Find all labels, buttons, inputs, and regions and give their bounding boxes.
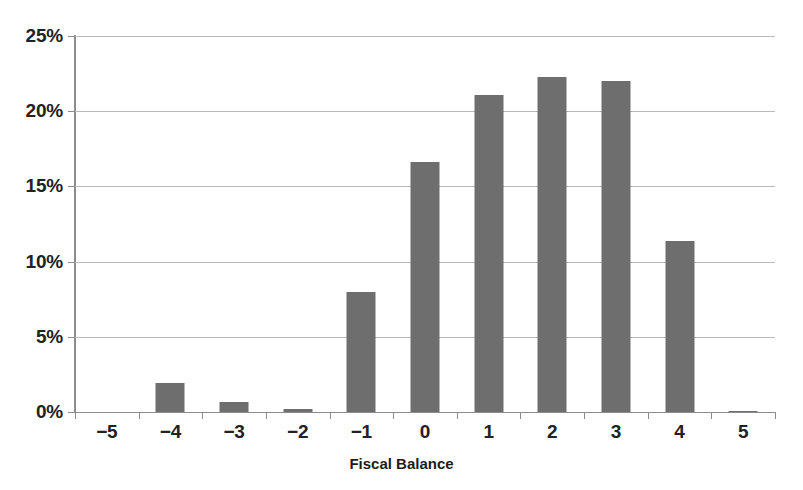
bar: [538, 77, 567, 412]
bar: [601, 81, 630, 412]
x-axis-tick: [775, 412, 776, 419]
plot-area: [75, 36, 775, 412]
x-axis-tick: [202, 412, 203, 419]
x-axis-tick: [584, 412, 585, 419]
bar-slot: [711, 36, 775, 412]
bar-slot: [393, 36, 457, 412]
x-axis-label: −2: [266, 421, 330, 443]
bar: [347, 292, 376, 412]
x-axis-tick: [520, 412, 521, 419]
x-axis-label: 1: [457, 421, 521, 443]
x-axis-label: 2: [520, 421, 584, 443]
y-axis-tick: [68, 36, 74, 37]
y-axis-tick: [68, 111, 74, 112]
x-axis-tick: [457, 412, 458, 419]
page-bleed-text: [30, 483, 730, 487]
x-axis-label: 3: [584, 421, 648, 443]
x-axis-label: 0: [393, 421, 457, 443]
y-axis-label: 10%: [0, 251, 63, 273]
y-axis-label: 15%: [0, 175, 63, 197]
y-axis-tick: [68, 412, 74, 413]
x-axis-tick: [139, 412, 140, 419]
y-axis-label: 0%: [0, 401, 63, 423]
bar-slot: [202, 36, 266, 412]
bars-group: [75, 36, 775, 412]
bar-slot: [266, 36, 330, 412]
x-axis-label: −4: [138, 421, 202, 443]
y-axis-label: 20%: [0, 100, 63, 122]
y-axis-tick: [68, 186, 74, 187]
x-axis-label: −3: [202, 421, 266, 443]
gridline-0%: [75, 412, 775, 413]
y-axis-label: 25%: [0, 25, 63, 47]
bar: [283, 409, 312, 412]
x-axis-label: 5: [711, 421, 775, 443]
x-axis-tick: [711, 412, 712, 419]
bar-slot: [584, 36, 648, 412]
y-axis-label: 5%: [0, 326, 63, 348]
bar-chart-figure: 0%5%10%15%20%25% −5−4−3−2−1012345 Fiscal…: [0, 0, 803, 490]
x-axis-label: −5: [75, 421, 139, 443]
bar: [156, 383, 185, 412]
bar-slot: [520, 36, 584, 412]
bar-slot: [75, 36, 139, 412]
bar: [665, 241, 694, 412]
bar: [474, 95, 503, 412]
x-axis-tick: [330, 412, 331, 419]
bar: [220, 402, 249, 412]
x-axis-tick: [393, 412, 394, 419]
x-axis-title: Fiscal Balance: [0, 455, 803, 472]
bar-slot: [139, 36, 203, 412]
bar-slot: [648, 36, 712, 412]
bar: [729, 411, 758, 413]
bar: [410, 162, 439, 412]
x-axis-tick: [648, 412, 649, 419]
bar-slot: [330, 36, 394, 412]
x-axis-label: −1: [329, 421, 393, 443]
y-axis-tick: [68, 337, 74, 338]
x-axis-tick: [75, 412, 76, 419]
bar-slot: [457, 36, 521, 412]
x-axis-label: 4: [648, 421, 712, 443]
x-axis-tick: [266, 412, 267, 419]
y-axis-tick: [68, 262, 74, 263]
